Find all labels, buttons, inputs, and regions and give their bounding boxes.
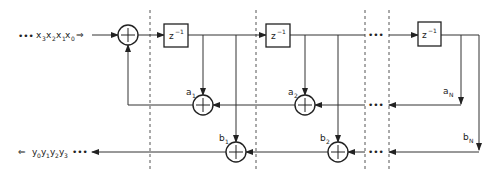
iir-filter-diagram: ••• x 3 x 2 x 1 x 0 ⇒ <box>0 0 499 181</box>
svg-text:0: 0 <box>71 35 75 42</box>
adder-b2 <box>328 142 348 162</box>
svg-text:z: z <box>271 31 276 41</box>
svg-text:−1: −1 <box>428 27 437 34</box>
coeff-bn: b N <box>463 132 474 144</box>
adder-a2 <box>295 95 315 115</box>
svg-text:N: N <box>449 91 454 98</box>
svg-text:z: z <box>169 31 174 41</box>
svg-text:−1: −1 <box>175 28 184 35</box>
svg-text:a: a <box>443 86 449 96</box>
svg-text:N: N <box>469 137 474 144</box>
svg-text:2: 2 <box>294 92 298 99</box>
input-dots: ••• <box>18 31 34 41</box>
svg-text:z: z <box>422 30 427 40</box>
input-sequence-label: ••• x 3 x 2 x 1 x 0 ⇒ <box>18 30 84 42</box>
coeff-b1: b 1 <box>219 133 229 145</box>
delay-box-n: z −1 <box>418 22 441 46</box>
svg-text:3: 3 <box>64 152 68 159</box>
svg-text:1: 1 <box>225 138 229 145</box>
coeff-a2: a 2 <box>288 87 298 99</box>
svg-text:a: a <box>186 87 192 97</box>
output-arrow-icon: ⇐ <box>18 147 26 157</box>
output-sequence-label: ⇐ y 0 y 1 y 2 y 3 ••• <box>18 147 88 159</box>
adder-input <box>118 25 138 45</box>
svg-text:2: 2 <box>326 138 330 145</box>
adder-a1 <box>193 95 213 115</box>
svg-text:a: a <box>288 87 294 97</box>
ellipsis-bottom: ••• <box>368 147 384 157</box>
adder-b1 <box>226 142 246 162</box>
delay-box-2: z −1 <box>266 24 290 47</box>
delay-box-1: z −1 <box>164 24 188 47</box>
ellipsis-top: ••• <box>368 30 384 40</box>
coeff-b2: b 2 <box>320 133 330 145</box>
output-dots: ••• <box>72 147 88 157</box>
svg-text:1: 1 <box>192 92 196 99</box>
coeff-a1: a 1 <box>186 87 196 99</box>
input-arrow-icon: ⇒ <box>76 30 84 40</box>
ellipsis-mid: ••• <box>368 100 384 110</box>
svg-text:−1: −1 <box>277 28 286 35</box>
coeff-an: a N <box>443 86 454 98</box>
